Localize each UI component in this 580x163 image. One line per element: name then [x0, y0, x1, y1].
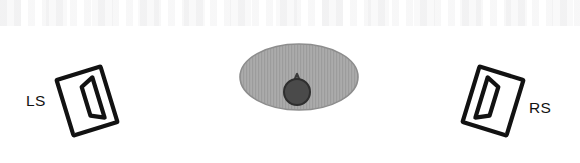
right-speaker-group: RS — [463, 67, 552, 136]
stereo-listening-diagram: LS RS — [0, 0, 580, 163]
right-speaker-label: RS — [529, 99, 551, 116]
right-speaker-icon — [463, 67, 524, 136]
diagram-canvas: LS RS — [0, 0, 580, 163]
listener-head-circle — [284, 79, 310, 105]
listening-area-group — [240, 44, 358, 110]
left-speaker-icon — [57, 67, 118, 136]
left-speaker-label: LS — [26, 92, 46, 109]
left-speaker-group: LS — [26, 67, 117, 136]
